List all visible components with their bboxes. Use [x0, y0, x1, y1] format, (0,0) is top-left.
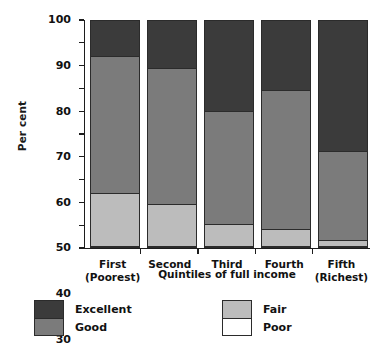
x-axis-title: Quintiles of full income — [84, 268, 370, 280]
bar-2[interactable] — [147, 20, 197, 248]
bar-3[interactable] — [204, 20, 254, 248]
legend-swatch-poor[interactable] — [223, 318, 251, 335]
legend-label-group: ExcellentGood — [75, 300, 132, 337]
legend-swatch-good[interactable] — [35, 318, 63, 335]
x-tick — [140, 248, 141, 254]
x-axis-line — [84, 248, 370, 249]
legend-label-poor: Poor — [263, 319, 292, 337]
legend-label-good: Good — [75, 319, 132, 337]
y-tick-label: 100 — [48, 13, 71, 26]
bar-1[interactable] — [90, 20, 140, 248]
y-axis-title: Per cent — [16, 86, 28, 166]
bar-segment-fair[interactable] — [147, 204, 197, 246]
y-tick-label: 60 — [56, 195, 71, 208]
plot-area: 1009080706050403020100 First(Poorest)Sec… — [84, 20, 370, 248]
legend-label-excellent: Excellent — [75, 301, 132, 319]
bar-segment-good[interactable] — [204, 111, 254, 225]
bar-segment-excellent[interactable] — [261, 20, 311, 90]
legend-swatch-fair[interactable] — [223, 301, 251, 318]
chart-legend: ExcellentGoodFairPoor — [0, 300, 391, 350]
bar-segment-good[interactable] — [261, 90, 311, 228]
x-tick — [255, 248, 256, 254]
bar-segment-fair[interactable] — [261, 229, 311, 246]
bar-segment-good[interactable] — [318, 151, 368, 239]
legend-label-group: FairPoor — [263, 300, 292, 337]
bar-5[interactable] — [318, 20, 368, 248]
bar-segment-excellent[interactable] — [204, 20, 254, 111]
bar-segment-poor[interactable] — [318, 246, 368, 248]
bar-segment-excellent[interactable] — [90, 20, 140, 56]
bars-layer — [84, 20, 370, 248]
y-tick-label: 80 — [56, 104, 71, 117]
bar-segment-fair[interactable] — [204, 224, 254, 246]
y-tick-label: 90 — [56, 58, 71, 71]
stacked-bar-chart: Per cent 1009080706050403020100 First(Po… — [0, 0, 391, 360]
y-tick-label: 70 — [56, 150, 71, 163]
bar-4[interactable] — [261, 20, 311, 248]
legend-swatch-excellent[interactable] — [35, 301, 63, 318]
legend-swatch-group — [34, 300, 64, 336]
y-tick-label: 50 — [56, 241, 71, 254]
bar-segment-fair[interactable] — [90, 193, 140, 245]
bar-segment-excellent[interactable] — [147, 20, 197, 68]
bar-segment-good[interactable] — [90, 56, 140, 193]
bar-segment-poor[interactable] — [147, 246, 197, 248]
x-tick — [312, 248, 313, 254]
bar-segment-poor[interactable] — [261, 246, 311, 248]
bar-segment-poor[interactable] — [204, 246, 254, 248]
legend-column-2: FairPoor — [222, 300, 292, 337]
legend-label-fair: Fair — [263, 301, 292, 319]
legend-column-1: ExcellentGood — [34, 300, 132, 337]
x-tick — [197, 248, 198, 254]
bar-segment-good[interactable] — [147, 68, 197, 204]
legend-swatch-group — [222, 300, 252, 336]
bar-segment-poor[interactable] — [90, 246, 140, 248]
y-tick-label: 40 — [56, 286, 71, 299]
bar-segment-excellent[interactable] — [318, 20, 368, 151]
